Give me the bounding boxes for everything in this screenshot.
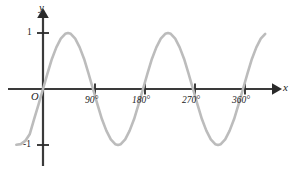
- x-tick-label-270: 270°: [182, 96, 200, 106]
- origin-label: O: [31, 92, 39, 103]
- x-tick-label-180: 180°: [132, 96, 150, 106]
- x-axis-label: x: [283, 82, 288, 93]
- x-axis-arrowhead: [272, 83, 282, 95]
- y-tick-label-1: 1: [27, 28, 32, 38]
- y-axis-label: y: [39, 2, 44, 13]
- x-tick-label-90: 90°: [85, 96, 98, 106]
- y-tick-label-minus-1: -1: [23, 140, 31, 150]
- plot-canvas: [0, 0, 294, 169]
- x-tick-label-360: 360°: [232, 96, 250, 106]
- sine-curve-figure: y x O 1 -1 90° 180° 270° 360°: [0, 0, 294, 169]
